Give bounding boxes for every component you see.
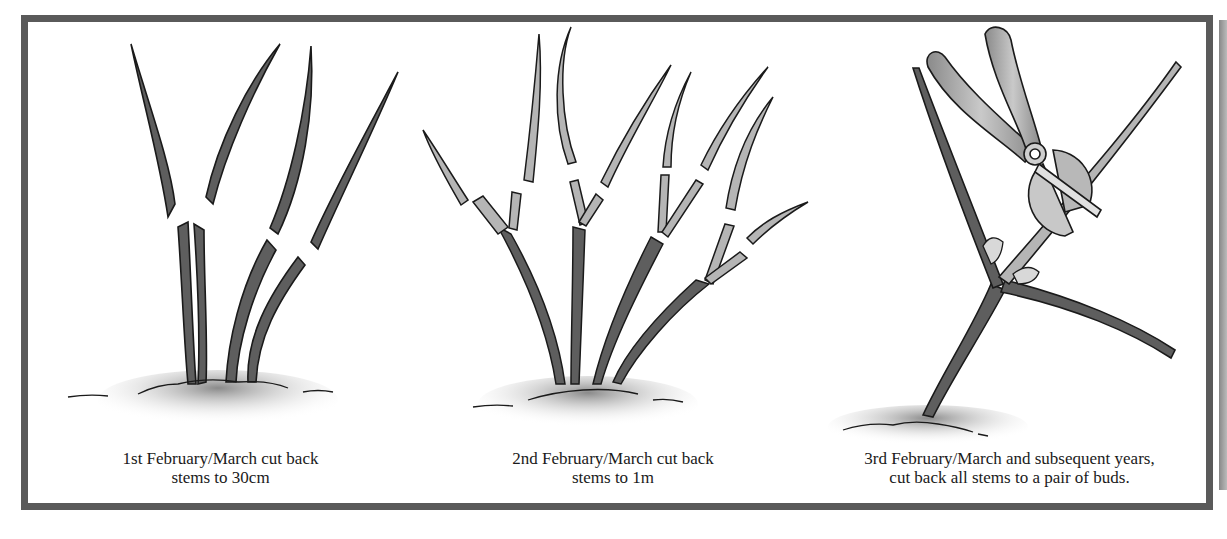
illustration-frame: 1st February/March cut back stems to 30c… <box>21 15 1213 510</box>
stem-group <box>423 27 808 384</box>
panel-year-3: 3rd February/March and subsequent years,… <box>813 22 1206 503</box>
branched-stems-illustration <box>413 22 813 452</box>
stem-group <box>131 44 398 384</box>
pruned-stem <box>913 62 1181 417</box>
panel-year-1: 1st February/March cut back stems to 30c… <box>28 22 413 503</box>
caption-year-2: 2nd February/March cut back stems to 1m <box>413 449 813 487</box>
secateurs-icon <box>927 27 1101 236</box>
soil-mound <box>98 370 338 430</box>
panel-year-2: 2nd February/March cut back stems to 1m <box>413 22 813 503</box>
caption-line-1: 1st February/March cut back <box>28 449 413 468</box>
secateurs-pruning-illustration <box>813 22 1206 452</box>
page-edge-shadow <box>1219 20 1227 490</box>
five-stems-illustration <box>28 22 413 452</box>
caption-line-2: cut back all stems to a pair of buds. <box>813 468 1206 487</box>
caption-line-2: stems to 30cm <box>28 468 413 487</box>
caption-line-1: 3rd February/March and subsequent years, <box>813 449 1206 468</box>
caption-year-3: 3rd February/March and subsequent years,… <box>813 449 1206 487</box>
caption-line-1: 2nd February/March cut back <box>413 449 813 468</box>
caption-year-1: 1st February/March cut back stems to 30c… <box>28 449 413 487</box>
soil-mound <box>478 376 698 432</box>
caption-line-2: stems to 1m <box>413 468 813 487</box>
